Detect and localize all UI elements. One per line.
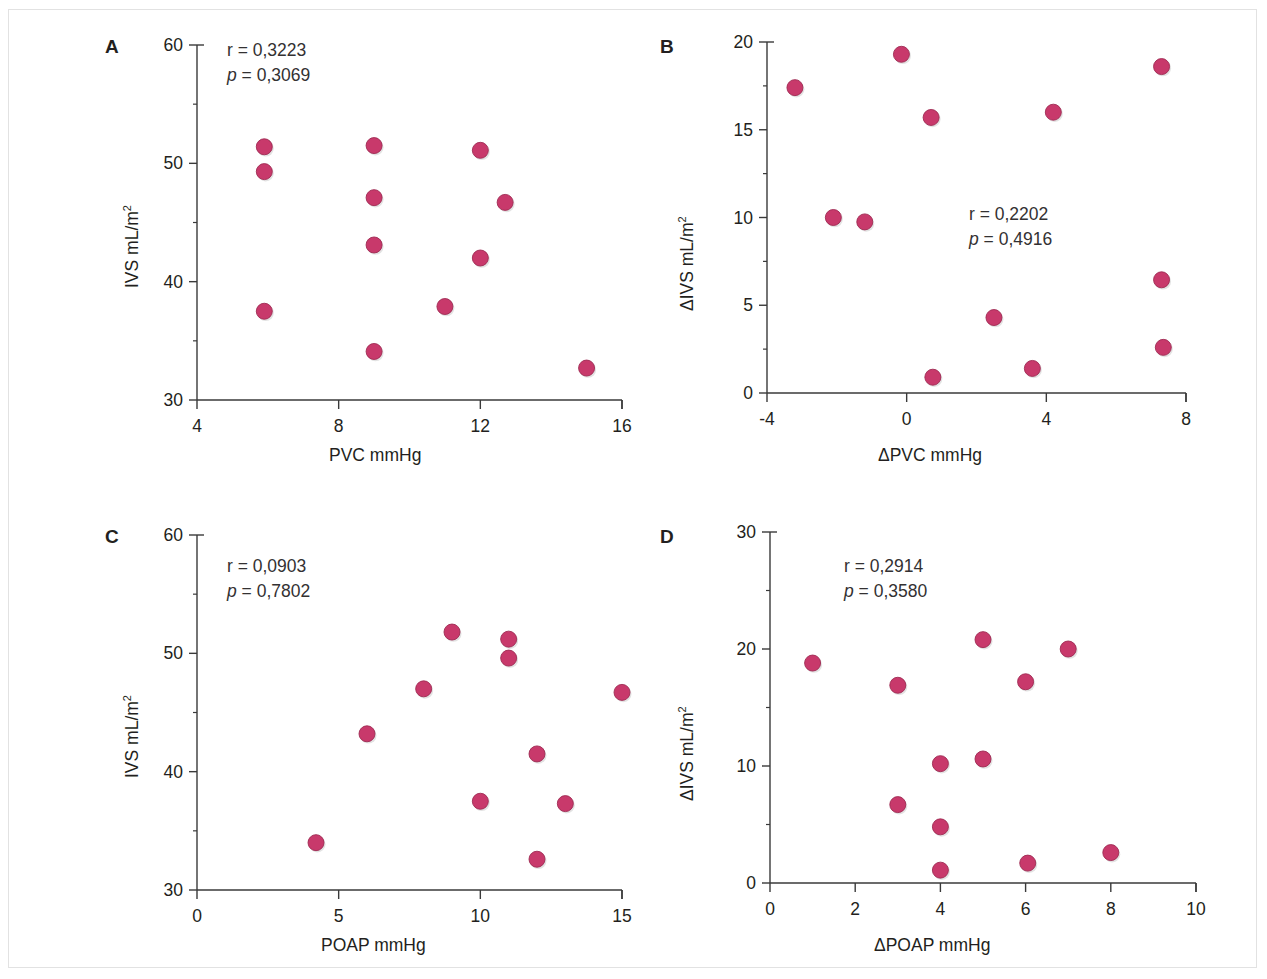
x-tick-label: 2 [850, 899, 860, 919]
data-point [932, 756, 948, 772]
y-tick-label: 30 [164, 390, 184, 410]
panel-c-y-axis-label-sup: 2 [121, 695, 133, 701]
panel-d: D 01020300246810 r = 0,2914 p = 0,3580 Δ… [654, 516, 1214, 971]
data-point [1155, 339, 1171, 355]
figure-frame: A 30405060481216 r = 0,3223 p = 0,3069 I… [8, 9, 1257, 968]
panel-d-y-axis-label-sup: 2 [676, 706, 688, 712]
y-tick-label: 50 [164, 153, 184, 173]
panel-c-stats: r = 0,0903 p = 0,7802 [227, 554, 310, 604]
panel-d-r-value: r = 0,2914 [844, 554, 927, 579]
data-point [805, 655, 821, 671]
panel-a-x-axis-label: PVC mmHg [329, 445, 421, 466]
data-point [308, 835, 324, 851]
panel-b-y-axis-label-text: ΔIVS mL/m [677, 222, 697, 311]
y-tick-label: 40 [164, 762, 184, 782]
x-tick-label: 0 [192, 906, 202, 926]
panel-a-y-axis-label-text: IVS mL/m [122, 211, 142, 288]
x-tick-label: 16 [612, 416, 631, 436]
data-point [925, 369, 941, 385]
data-point [444, 624, 460, 640]
panel-a-p-symbol: p [227, 65, 237, 85]
panel-d-p-rest: = 0,3580 [854, 581, 927, 601]
panel-d-plot: 01020300246810 [654, 516, 1214, 971]
panel-a-y-axis-label: IVS mL/m2 [121, 205, 143, 288]
data-point [579, 360, 595, 376]
panel-d-x-axis-label: ΔPOAP mmHg [874, 935, 990, 956]
y-tick-label: 50 [164, 643, 184, 663]
x-tick-label: 4 [192, 416, 202, 436]
y-tick-label: 10 [737, 756, 757, 776]
panel-b-plot: 05101520-4048 [654, 26, 1214, 481]
x-tick-label: 8 [334, 416, 344, 436]
panel-b-y-axis-label: ΔIVS mL/m2 [676, 216, 698, 311]
y-tick-label: 40 [164, 272, 184, 292]
data-point [472, 793, 488, 809]
x-tick-label: 10 [471, 906, 491, 926]
y-tick-label: 30 [164, 880, 184, 900]
panel-d-stats: r = 0,2914 p = 0,3580 [844, 554, 927, 604]
y-tick-label: 20 [734, 32, 754, 52]
panel-a-plot: 30405060481216 [99, 26, 644, 481]
data-point [923, 109, 939, 125]
x-tick-label: 8 [1106, 899, 1116, 919]
data-point [501, 631, 517, 647]
data-point [497, 194, 513, 210]
panel-d-p-symbol: p [844, 581, 854, 601]
data-point [366, 138, 382, 154]
data-point [416, 681, 432, 697]
panel-a-p-rest: = 0,3069 [237, 65, 310, 85]
x-tick-label: 6 [1021, 899, 1031, 919]
data-point [437, 299, 453, 315]
y-tick-label: 5 [743, 295, 753, 315]
x-tick-label: 12 [471, 416, 490, 436]
panel-b-p-rest: = 0,4916 [979, 229, 1052, 249]
data-point [529, 746, 545, 762]
x-tick-label: 5 [334, 906, 344, 926]
data-point [932, 862, 948, 878]
data-point [975, 751, 991, 767]
panel-b-y-axis-label-sup: 2 [676, 216, 688, 222]
data-point [932, 819, 948, 835]
panel-b-stats: r = 0,2202 p = 0,4916 [969, 202, 1052, 252]
panel-d-y-axis-label: ΔIVS mL/m2 [676, 706, 698, 801]
y-tick-label: 15 [734, 120, 753, 140]
panel-d-p-value: p = 0,3580 [844, 579, 927, 604]
panel-a-p-value: p = 0,3069 [227, 63, 310, 88]
data-point [893, 46, 909, 62]
data-point [1154, 272, 1170, 288]
data-point [857, 214, 873, 230]
y-tick-label: 60 [164, 35, 184, 55]
panel-c-plot: 30405060051015 [99, 516, 644, 971]
panel-a-stats: r = 0,3223 p = 0,3069 [227, 38, 310, 88]
data-point [256, 139, 272, 155]
panel-b-x-axis-label: ΔPVC mmHg [878, 445, 982, 466]
panel-c-r-value: r = 0,0903 [227, 554, 310, 579]
data-point [366, 190, 382, 206]
x-tick-label: 8 [1181, 409, 1191, 429]
data-point [472, 142, 488, 158]
data-point [366, 237, 382, 253]
panel-c-p-symbol: p [227, 581, 237, 601]
panel-a: A 30405060481216 r = 0,3223 p = 0,3069 I… [99, 26, 644, 481]
data-point [890, 677, 906, 693]
x-tick-label: -4 [759, 409, 775, 429]
panel-b: B 05101520-4048 r = 0,2202 p = 0,4916 ΔI… [654, 26, 1214, 481]
x-tick-label: 0 [765, 899, 775, 919]
data-point [1103, 845, 1119, 861]
panel-c-y-axis-label-text: IVS mL/m [122, 701, 142, 778]
data-point [366, 343, 382, 359]
x-tick-label: 4 [936, 899, 946, 919]
y-tick-label: 30 [737, 522, 757, 542]
panel-b-p-symbol: p [969, 229, 979, 249]
data-point [1060, 641, 1076, 657]
panel-c-p-rest: = 0,7802 [237, 581, 310, 601]
panel-d-y-axis-label-text: ΔIVS mL/m [677, 712, 697, 801]
data-point [256, 303, 272, 319]
data-point [1018, 674, 1034, 690]
data-point [529, 851, 545, 867]
data-point [614, 684, 630, 700]
y-tick-label: 60 [164, 525, 184, 545]
y-tick-label: 10 [734, 208, 754, 228]
y-tick-label: 0 [746, 873, 756, 893]
data-point [986, 310, 1002, 326]
